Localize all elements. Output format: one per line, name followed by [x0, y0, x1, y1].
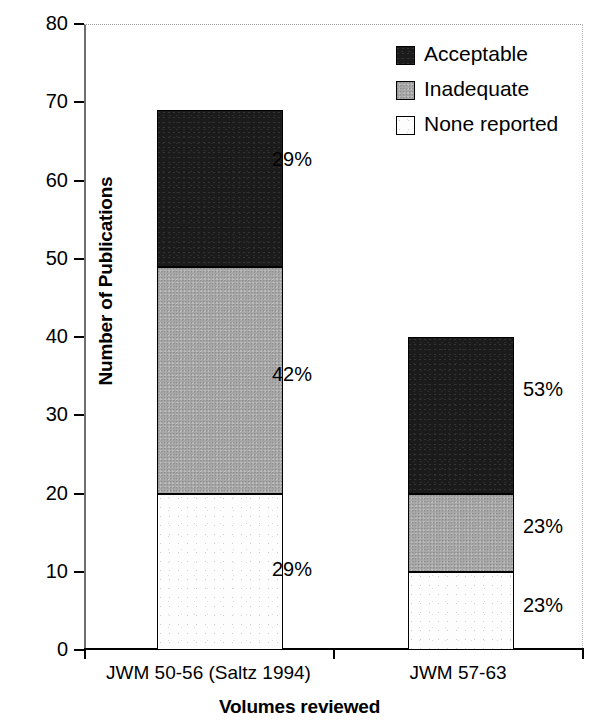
y-tick-mark-40 [74, 336, 84, 338]
y-tick-label-20: 20 [46, 482, 68, 505]
x-category-label-jwm-57-63: JWM 57-63 [333, 662, 583, 684]
x-tick-mark-left [84, 648, 86, 659]
y-tick-label-50: 50 [46, 247, 68, 270]
y-tick-mark-0 [74, 649, 84, 651]
y-tick-mark-20 [74, 493, 84, 495]
pct-label-none-reported-jwm-57-63: 23% [523, 594, 563, 617]
y-tick-mark-30 [74, 414, 84, 416]
pct-label-none-reported-jwm-50-56: 29% [272, 558, 312, 581]
bar-group-jwm-50-56 [157, 110, 283, 650]
legend-label-acceptable: Acceptable [424, 42, 528, 66]
y-tick-label-0: 0 [57, 638, 68, 661]
bar-segment-inadequate-jwm-50-56 [157, 267, 283, 494]
bar-segment-acceptable-jwm-57-63 [408, 337, 514, 494]
pct-label-inadequate-jwm-57-63: 23% [523, 515, 563, 538]
y-tick-mark-10 [74, 571, 84, 573]
bar-group-jwm-57-63 [408, 337, 514, 650]
bar-segment-none-reported-jwm-50-56 [157, 494, 283, 651]
legend-label-inadequate: Inadequate [424, 77, 529, 101]
bar-segment-acceptable-jwm-50-56 [157, 110, 283, 267]
y-tick-label-40: 40 [46, 325, 68, 348]
y-tick-label-70: 70 [46, 90, 68, 113]
x-tick-mark-right [582, 648, 584, 659]
bar-segment-inadequate-jwm-57-63 [408, 494, 514, 572]
y-tick-mark-60 [74, 180, 84, 182]
legend-swatch-inadequate-icon [396, 81, 415, 100]
x-category-label-jwm-50-56: JWM 50-56 (Saltz 1994) [84, 662, 333, 684]
y-tick-label-30: 30 [46, 403, 68, 426]
y-tick-label-80: 80 [46, 12, 68, 35]
legend-swatch-acceptable-icon [396, 46, 415, 65]
y-tick-mark-80 [74, 23, 84, 25]
pct-label-acceptable-jwm-50-56: 29% [272, 148, 312, 171]
legend-label-none-reported: None reported [424, 112, 558, 136]
x-tick-mark-middle [333, 648, 335, 659]
y-tick-mark-70 [74, 101, 84, 103]
y-axis-title: Number of Publications [95, 161, 117, 401]
y-tick-label-60: 60 [46, 169, 68, 192]
x-axis-title: Volumes reviewed [0, 696, 599, 718]
y-tick-mark-50 [74, 258, 84, 260]
legend-swatch-none-reported-icon [396, 116, 415, 135]
pct-label-inadequate-jwm-50-56: 42% [272, 363, 312, 386]
pct-label-acceptable-jwm-57-63: 53% [523, 378, 563, 401]
y-tick-label-10: 10 [46, 560, 68, 583]
bar-segment-none-reported-jwm-57-63 [408, 572, 514, 650]
stacked-bar-chart: Number of Publications 80 70 60 50 40 30… [0, 0, 599, 728]
